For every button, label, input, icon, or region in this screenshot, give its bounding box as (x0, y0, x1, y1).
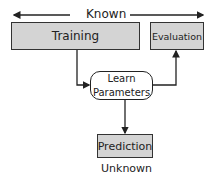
training-box: Training (11, 22, 140, 50)
unknown-label: Unknown (101, 162, 152, 175)
learn-label-line2: Parameters (93, 86, 150, 100)
known-label: Known (84, 7, 128, 21)
evaluation-box: Evaluation (150, 22, 204, 50)
training-label: Training (52, 29, 99, 43)
learn-label-line1: Learn (93, 72, 150, 86)
prediction-label: Prediction (98, 140, 153, 153)
learn-parameters-box: Learn Parameters (90, 71, 153, 100)
evaluation-label: Evaluation (152, 31, 202, 42)
prediction-box: Prediction (97, 134, 153, 158)
